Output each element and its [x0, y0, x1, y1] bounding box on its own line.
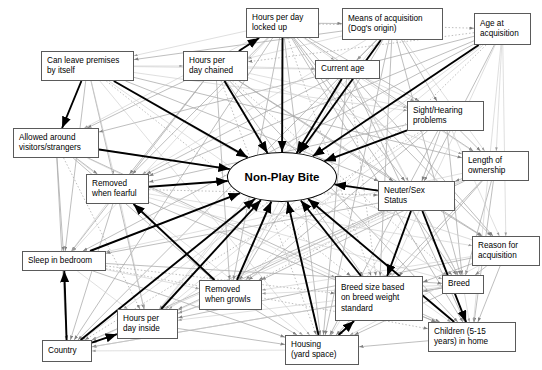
node-label: Current age — [321, 64, 364, 74]
edge-country-to-sleep-bedroom — [64, 271, 66, 340]
node-non-play-bite[interactable]: Non-Play Bite — [227, 152, 337, 202]
node-allowed-around[interactable]: Allowed around visitors/strangers — [13, 128, 99, 158]
node-country[interactable]: Country — [42, 340, 92, 362]
node-children[interactable]: Children (5-15 years) in home — [428, 322, 516, 352]
node-breed-size[interactable]: Breed size based on breed weight standar… — [335, 276, 423, 321]
node-housing[interactable]: Housing (yard space) — [285, 335, 359, 365]
node-label: Housing (yard space) — [291, 340, 337, 361]
edge-housing-to-non-play-bite — [288, 202, 319, 335]
edge-age-acq-to-length-ownership — [496, 45, 501, 151]
edge-children-to-housing — [359, 341, 428, 347]
edge-housing-to-country — [92, 350, 285, 351]
node-label: Hours per day chained — [189, 56, 233, 77]
node-label: Length of ownership — [468, 156, 505, 177]
node-label: Removed when fearful — [92, 179, 137, 200]
edge-removed-fearful-to-non-play-bite — [149, 181, 228, 187]
edge-means-acq-to-breed — [397, 40, 461, 275]
node-label: Neuter/Sex Status — [384, 186, 425, 207]
node-length-ownership[interactable]: Length of ownership — [462, 151, 529, 181]
node-label: Reason for acquisition — [478, 241, 518, 262]
edge-hours-chained-to-allowed-around — [87, 81, 184, 128]
edge-can-leave-to-non-play-bite — [114, 81, 248, 157]
node-label: Means of acquisition (Dog's origin) — [348, 14, 423, 35]
node-label: Breed size based on breed weight standar… — [341, 283, 404, 314]
edge-hours-chained-to-sleep-bedroom — [72, 81, 204, 251]
center-node-label: Non-Play Bite — [245, 171, 320, 183]
node-sleep-bedroom[interactable]: Sleep in bedroom — [22, 251, 106, 271]
node-means-acq[interactable]: Means of acquisition (Dog's origin) — [342, 8, 443, 40]
edge-can-leave-to-allowed-around — [62, 81, 81, 128]
edge-removed-fearful-to-sleep-bedroom — [71, 204, 106, 251]
edge-sleep-bedroom-to-hours-inside — [77, 271, 127, 309]
node-label: Children (5-15 years) in home — [434, 327, 488, 348]
node-label: Hours per day inside — [123, 314, 160, 335]
node-label: Allowed around visitors/strangers — [19, 133, 81, 154]
node-current-age[interactable]: Current age — [315, 60, 380, 79]
edge-means-acq-to-sight-hearing — [402, 40, 437, 101]
diagram-canvas: Hours per day locked upMeans of acquisit… — [0, 0, 542, 370]
node-label: Age at acquisition — [480, 19, 519, 40]
node-hours-locked-up[interactable]: Hours per day locked up — [246, 8, 319, 38]
edge-neuter-sex-to-reason-acq — [441, 211, 482, 236]
node-label: Removed when growls — [205, 285, 251, 306]
node-label: Breed — [448, 279, 470, 289]
edge-allowed-around-to-sleep-bedroom — [57, 158, 63, 251]
edge-hours-inside-to-housing — [178, 329, 285, 345]
node-label: Country — [48, 346, 77, 356]
node-label: Sleep in bedroom — [28, 256, 92, 266]
node-neuter-sex[interactable]: Neuter/Sex Status — [378, 181, 455, 211]
node-can-leave[interactable]: Can leave premises by itself — [41, 51, 134, 81]
node-reason-acq[interactable]: Reason for acquisition — [472, 236, 540, 266]
edge-means-acq-to-non-play-bite — [299, 40, 381, 153]
node-hours-inside[interactable]: Hours per day inside — [117, 309, 178, 339]
node-hours-chained[interactable]: Hours per day chained — [183, 51, 248, 81]
edge-housing-to-breed-size — [339, 321, 355, 335]
node-age-acq[interactable]: Age at acquisition — [474, 13, 531, 45]
edge-sleep-bedroom-to-removed-growls — [106, 270, 199, 289]
node-label: Can leave premises by itself — [47, 56, 119, 77]
node-label: Hours per day locked up — [252, 13, 303, 34]
node-sight-hearing[interactable]: Sight/Hearing problems — [407, 101, 484, 131]
edge-means-acq-to-length-ownership — [404, 40, 485, 151]
node-breed[interactable]: Breed — [442, 275, 484, 294]
node-label: Sight/Hearing problems — [413, 106, 463, 127]
node-removed-fearful[interactable]: Removed when fearful — [86, 174, 149, 204]
node-removed-growls[interactable]: Removed when growls — [199, 280, 262, 310]
edge-age-acq-to-reason-acq — [503, 45, 506, 236]
